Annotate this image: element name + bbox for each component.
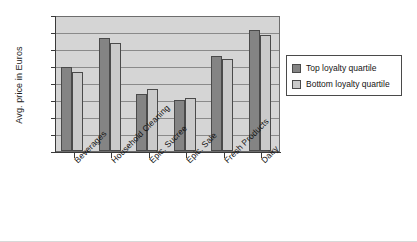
bar	[260, 35, 271, 151]
bar	[185, 98, 196, 151]
legend-item: Bottom loyalty quartile	[292, 76, 396, 92]
legend-item: Top loyalty quartile	[292, 60, 396, 76]
bar	[61, 67, 72, 151]
legend-swatch-icon	[292, 64, 301, 73]
chart-legend: Top loyalty quartileBottom loyalty quart…	[286, 55, 402, 96]
y-axis-title: Avg. price in Euros	[14, 19, 24, 151]
bar	[72, 72, 83, 151]
legend-label: Bottom loyalty quartile	[306, 79, 390, 89]
y-axis-line	[55, 16, 56, 153]
legend-label: Top loyalty quartile	[306, 63, 376, 73]
chart-figure: Avg. price in Euros 43.532.521.510.50 Be…	[0, 0, 417, 242]
bar	[110, 43, 121, 151]
legend-swatch-icon	[292, 80, 301, 89]
bar	[222, 59, 233, 151]
plot-area	[55, 16, 280, 152]
bar-group	[56, 17, 94, 151]
